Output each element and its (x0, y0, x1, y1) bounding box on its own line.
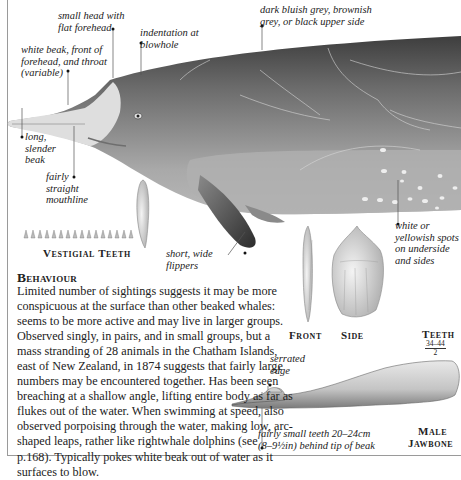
vestigial-tooth-large (137, 180, 149, 248)
caption-front: Front (289, 329, 322, 341)
behaviour-text: Limited number of sightings suggests it … (17, 284, 293, 480)
tooth-front-view (303, 226, 312, 322)
callout-white-beak: white beak, front of forehead, and throa… (21, 44, 107, 79)
caption-jawbone: Jawbone (408, 437, 453, 449)
callout-mouthline: fairly straight mouthline (46, 171, 88, 206)
caption-side: Side (341, 329, 364, 341)
caption-male: Male (418, 425, 447, 437)
vestigial-teeth-row (24, 230, 133, 238)
caption-vestigial-teeth: Vestigial Teeth (43, 247, 131, 259)
callout-blowhole: indentation at blowhole (140, 27, 199, 50)
callout-spots: white or yellowish spots on underside an… (395, 220, 459, 266)
callout-upper-side: dark bluish grey, brownish grey, or blac… (260, 4, 372, 27)
behaviour-paragraph: Limited number of sightings suggests it … (17, 284, 293, 480)
teeth-formula: Teeth 34–44 2 (422, 328, 461, 357)
tooth-side-view (332, 226, 383, 317)
callout-flippers: short, wide flippers (166, 248, 213, 271)
teeth-fraction: 34–44 2 (425, 340, 446, 357)
teeth-denominator: 2 (434, 349, 438, 357)
callout-small-head: small head with flat forehead (58, 10, 125, 33)
callout-long-beak: long, slender beak (25, 131, 56, 166)
